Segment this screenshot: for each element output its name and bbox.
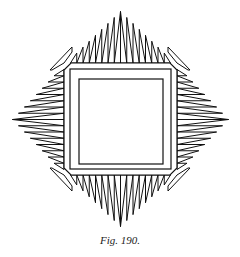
ray-triangle — [108, 175, 114, 221]
ray-triangle — [96, 175, 102, 209]
ray-triangle — [177, 132, 217, 138]
ray-triangle — [108, 17, 114, 63]
figure-caption: Fig. 190. — [0, 234, 240, 246]
ray-triangle — [48, 76, 64, 82]
ray-triangle — [146, 35, 152, 63]
ray-triangle — [36, 145, 64, 151]
inner-frame — [79, 79, 163, 164]
ray-triangle — [30, 95, 64, 101]
ray-triangle — [133, 175, 139, 215]
ray-triangle — [102, 23, 108, 63]
frame-diagram — [0, 0, 240, 230]
ray-triangle — [114, 175, 120, 227]
ray-triangle — [83, 175, 89, 197]
ray-triangle — [177, 82, 199, 88]
ray-triangle — [158, 47, 164, 63]
ray-triangle — [36, 88, 64, 94]
ray-triangle — [177, 76, 193, 82]
ray-triangle — [127, 17, 133, 63]
ray-triangle — [24, 132, 64, 138]
ray-triangle — [177, 101, 217, 107]
ray-triangle — [177, 138, 211, 144]
ray-triangle — [133, 23, 139, 63]
ray-triangle — [89, 35, 95, 63]
ray-triangle — [48, 157, 64, 163]
ray-triangle — [71, 53, 77, 63]
ray-triangle — [89, 175, 95, 203]
ray-triangle — [30, 138, 64, 144]
ray-triangle — [121, 12, 127, 64]
ray-triangle — [102, 175, 108, 215]
ray-triangle — [13, 113, 65, 119]
ray-triangle — [177, 88, 205, 94]
ray-triangle — [177, 113, 229, 119]
ray-triangle — [177, 120, 229, 126]
ray-triangle — [13, 120, 65, 126]
ray-triangle — [54, 163, 64, 169]
frame — [64, 63, 177, 175]
ray-triangle — [54, 70, 64, 76]
ray-triangle — [127, 175, 133, 221]
ray-triangle — [177, 151, 199, 157]
ray-triangle — [177, 157, 193, 163]
ray-triangle — [139, 29, 145, 63]
ray-triangle — [77, 47, 83, 63]
ray-triangle — [18, 126, 64, 132]
ray-triangle — [114, 12, 120, 64]
ray-triangle — [152, 175, 158, 197]
ray-triangle — [177, 145, 205, 151]
ray-triangle — [96, 29, 102, 63]
ray-triangle — [42, 151, 64, 157]
ray-triangle — [139, 175, 145, 209]
ray-triangle — [121, 175, 127, 227]
ray-triangle — [177, 126, 223, 132]
ray-triangle — [18, 107, 64, 113]
ray-triangle — [42, 82, 64, 88]
ray-triangle — [83, 41, 89, 63]
ray-triangle — [146, 175, 152, 203]
ray-triangle — [71, 175, 77, 185]
ray-triangle — [177, 70, 187, 76]
ray-triangle — [24, 101, 64, 107]
ray-triangle — [177, 107, 223, 113]
star-frame-drawing — [0, 0, 240, 230]
ray-triangle — [177, 95, 211, 101]
ray-triangle — [77, 175, 83, 191]
ray-triangle — [158, 175, 164, 191]
ray-triangle — [152, 41, 158, 63]
ray-triangle — [177, 163, 187, 169]
